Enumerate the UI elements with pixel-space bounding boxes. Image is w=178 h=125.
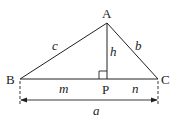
side-c	[20, 23, 107, 79]
right-angle-marker	[99, 71, 107, 79]
vertex-label-b: B	[6, 72, 15, 87]
point-label-p: P	[102, 82, 109, 97]
triangle-diagram: A B C P c b h m n a	[0, 0, 178, 125]
vertex-label-a: A	[102, 6, 112, 21]
side-label-b: b	[135, 38, 142, 53]
side-label-c: c	[52, 38, 58, 53]
vertex-label-c: C	[161, 72, 170, 87]
dimension-label-a: a	[93, 103, 100, 118]
segment-label-m: m	[59, 81, 68, 96]
altitude-label-h: h	[110, 44, 117, 59]
segment-label-n: n	[132, 81, 139, 96]
